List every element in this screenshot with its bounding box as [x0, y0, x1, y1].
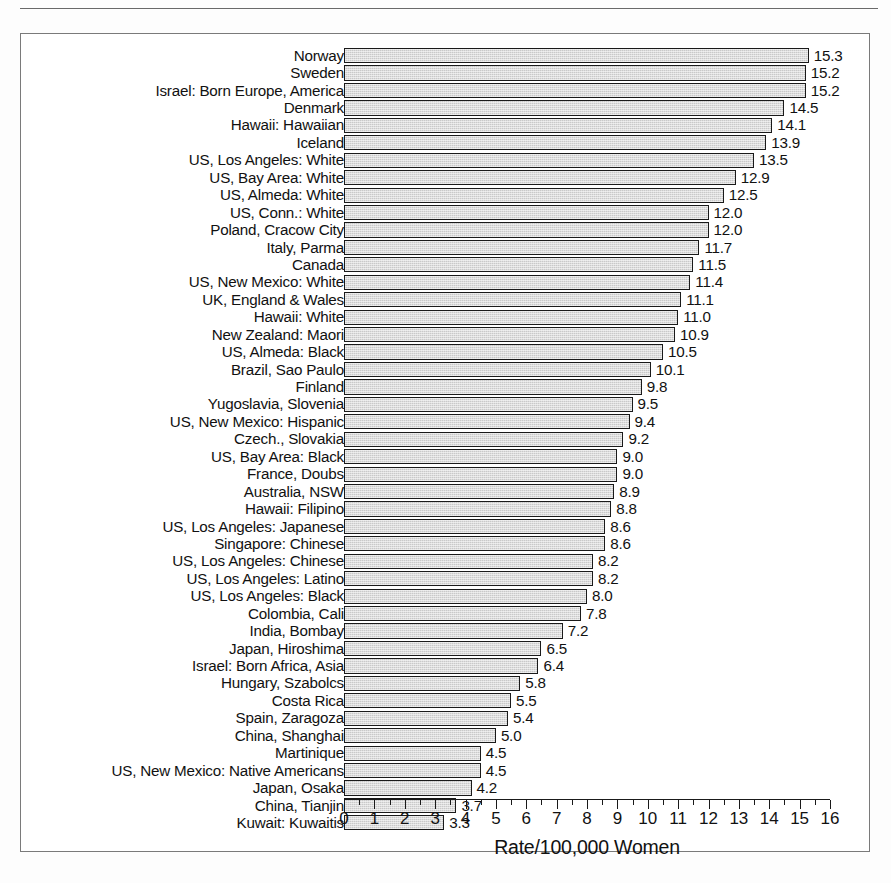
x-axis-minor-tick	[815, 800, 816, 805]
bar-category-label: US, Los Angeles: Japanese	[162, 519, 344, 534]
bar	[344, 728, 496, 743]
bar-category-label: Norway	[294, 48, 344, 63]
bar-row: US, Los Angeles: Japanese8.6	[21, 518, 871, 535]
bar-row: Czech., Slovakia9.2	[21, 431, 871, 448]
x-axis-tick-label: 4	[461, 810, 470, 827]
bar	[344, 658, 538, 673]
x-axis-tick-label: 1	[370, 810, 379, 827]
bar-category-label: Hawaii: Filipino	[245, 501, 344, 516]
bar-value-label: 11.5	[698, 257, 726, 272]
bar	[344, 344, 663, 359]
bar-value-label: 4.5	[486, 763, 507, 778]
bar-row: Hawaii: Hawaiian14.1	[21, 117, 871, 134]
bar-category-label: Hawaii: Hawaiian	[231, 118, 344, 133]
bar-value-label: 8.8	[616, 501, 637, 516]
x-axis-tick	[344, 800, 345, 809]
bar-row: Poland, Cracow City12.0	[21, 221, 871, 238]
x-axis-tick	[435, 800, 436, 809]
x-axis-tick-label: 11	[669, 810, 687, 827]
bar-category-label: Yugoslavia, Slovenia	[208, 397, 344, 412]
bar-category-label: US, Los Angeles: White	[189, 153, 344, 168]
bar-row: Colombia, Cali7.8	[21, 605, 871, 622]
bar-value-label: 9.5	[638, 397, 659, 412]
bar	[344, 310, 678, 325]
bar-value-label: 5.5	[516, 693, 537, 708]
bar-category-label: Israel: Born Africa, Asia	[192, 658, 344, 673]
x-axis-minor-tick	[450, 800, 451, 805]
bar-category-label: Australia, NSW	[244, 484, 344, 499]
bar-row: US, Almeda: Black10.5	[21, 343, 871, 360]
bar-value-label: 8.0	[592, 589, 613, 604]
bar-row: Brazil, Sao Paulo10.1	[21, 361, 871, 378]
x-axis-tick-label: 6	[522, 810, 531, 827]
bar-category-label: Sweden	[290, 66, 344, 81]
bar	[344, 83, 806, 98]
bar-row: Martinique4.5	[21, 745, 871, 762]
bar	[344, 379, 642, 394]
bar-row: UK, England & Wales11.1	[21, 291, 871, 308]
bar-value-label: 11.7	[704, 240, 732, 255]
bar-value-label: 7.8	[586, 606, 607, 621]
bar-category-label: Hungary, Szabolcs	[221, 676, 344, 691]
x-axis-tick-label: 5	[491, 810, 500, 827]
bar	[344, 571, 593, 586]
x-axis-tick	[587, 800, 588, 809]
bar-category-label: US, Almeda: White	[220, 188, 344, 203]
x-axis-tick	[557, 800, 558, 809]
bar-category-label: US, Bay Area: Black	[211, 449, 344, 464]
x-axis-title: Rate/100,000 Women	[344, 836, 830, 859]
bar-value-label: 12.0	[714, 222, 743, 237]
x-axis-tick-label: 15	[790, 810, 809, 827]
bar-category-label: Japan, Osaka	[253, 780, 344, 795]
bar-value-label: 5.0	[501, 728, 522, 743]
bar-category-label: Iceland	[296, 135, 344, 150]
bar-value-label: 9.2	[628, 432, 649, 447]
bar-value-label: 10.1	[656, 362, 685, 377]
bar	[344, 292, 681, 307]
bar-value-label: 15.2	[811, 66, 840, 81]
x-axis-tick-label: 12	[699, 810, 718, 827]
bar-value-label: 4.5	[486, 746, 507, 761]
x-axis-tick	[405, 800, 406, 809]
x-axis-tick-label: 0	[339, 810, 348, 827]
top-divider-rule	[20, 8, 878, 9]
bar	[344, 467, 617, 482]
bar-value-label: 4.2	[477, 780, 498, 795]
bar-category-label: US, Almeda: Black	[222, 345, 344, 360]
bar-category-label: US, Los Angeles: Latino	[186, 571, 344, 586]
bar-category-label: France, Doubs	[247, 467, 344, 482]
bar-category-label: UK, England & Wales	[202, 292, 344, 307]
x-axis-tick	[466, 800, 467, 809]
bar-rows-container: Norway15.3Sweden15.2Israel: Born Europe,…	[21, 47, 871, 832]
bar	[344, 641, 541, 656]
bar	[344, 484, 614, 499]
bar	[344, 676, 520, 691]
bar-row: Hawaii: Filipino8.8	[21, 500, 871, 517]
bar-category-label: Hawaii: White	[254, 310, 344, 325]
bar	[344, 118, 772, 133]
bar-row: US, Almeda: White12.5	[21, 187, 871, 204]
x-axis-minor-tick	[633, 800, 634, 805]
bar-row: US, New Mexico: Hispanic9.4	[21, 413, 871, 430]
x-axis-tick-label: 7	[552, 810, 561, 827]
x-axis-minor-tick	[420, 800, 421, 805]
x-axis-tick-label: 8	[582, 810, 591, 827]
bar-category-label: Costa Rica	[272, 693, 344, 708]
bar-value-label: 15.3	[814, 48, 843, 63]
x-axis-minor-tick	[602, 800, 603, 805]
bar-category-label: Kuwait: Kuwaitis	[237, 815, 344, 830]
bar-row: Norway15.3	[21, 47, 871, 64]
bar	[344, 205, 709, 220]
bar-row: Israel: Born Africa, Asia6.4	[21, 657, 871, 674]
bar-value-label: 5.8	[525, 676, 546, 691]
bar-value-label: 9.4	[635, 414, 656, 429]
x-axis-minor-tick	[359, 800, 360, 805]
x-axis-tick	[830, 800, 831, 809]
x-axis-tick-label: 2	[400, 810, 409, 827]
bar	[344, 414, 630, 429]
bar-row: US, Bay Area: White12.9	[21, 169, 871, 186]
bar-value-label: 13.5	[759, 153, 788, 168]
bar-category-label: India, Bombay	[250, 624, 345, 639]
bar	[344, 48, 809, 63]
x-axis-minor-tick	[724, 800, 725, 805]
